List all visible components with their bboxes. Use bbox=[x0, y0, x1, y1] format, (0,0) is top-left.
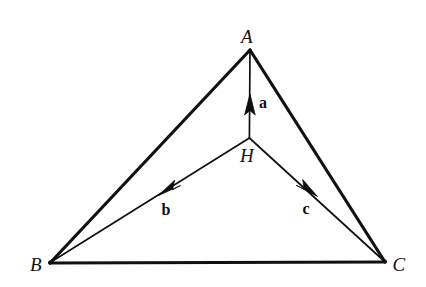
vertex-B-joint bbox=[48, 261, 52, 265]
side-BC-line bbox=[50, 262, 385, 263]
vector-label-b: b bbox=[162, 202, 171, 218]
vector-label-a: a bbox=[259, 95, 267, 111]
vertex-label-A: A bbox=[241, 27, 253, 46]
vertex-label-C: C bbox=[393, 255, 406, 274]
vertex-label-H: H bbox=[240, 146, 254, 165]
triangle-diagram-canvas bbox=[0, 0, 426, 287]
vertex-label-B: B bbox=[30, 255, 42, 274]
geometry-figure: A H B C a b c bbox=[0, 0, 426, 287]
vector-label-c: c bbox=[302, 201, 309, 217]
vertex-C-joint bbox=[383, 260, 387, 264]
vertex-A-joint bbox=[248, 49, 252, 53]
vector-c-arrowhead bbox=[296, 180, 317, 197]
